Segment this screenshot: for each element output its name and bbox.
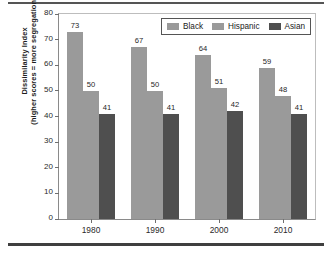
bar-value-label: 42 bbox=[231, 100, 239, 109]
bar[interactable]: 50 bbox=[83, 91, 99, 219]
figure-top-rule bbox=[8, 2, 324, 4]
bar[interactable]: 64 bbox=[195, 55, 211, 219]
y-axis-tick-label: 70 bbox=[44, 34, 53, 43]
x-axis-tick-label: 2000 bbox=[210, 225, 229, 235]
y-axis-tick-label: 0 bbox=[49, 213, 53, 222]
legend-item[interactable]: Asian bbox=[269, 22, 305, 31]
bar-value-label: 59 bbox=[263, 57, 271, 66]
legend-label: Black bbox=[183, 22, 203, 31]
bar[interactable]: 41 bbox=[291, 114, 307, 219]
plot-area: 01020304050607080 7350416750416451425948… bbox=[58, 13, 316, 220]
bar-group: 594841 bbox=[251, 14, 315, 219]
x-axis-tick-mark bbox=[219, 219, 220, 223]
y-axis-title-line-2: (higher scores = more segregation) bbox=[30, 0, 39, 125]
legend-item[interactable]: Hispanic bbox=[212, 22, 259, 31]
bar-group: 645142 bbox=[187, 14, 251, 219]
bar[interactable]: 41 bbox=[163, 114, 179, 219]
bar[interactable]: 50 bbox=[147, 91, 163, 219]
bar-group: 735041 bbox=[59, 14, 123, 219]
bar-value-label: 48 bbox=[279, 85, 287, 94]
bar[interactable]: 51 bbox=[211, 88, 227, 219]
x-axis-tick-mark bbox=[155, 219, 156, 223]
y-axis-tick-label: 40 bbox=[44, 111, 53, 120]
bar[interactable]: 59 bbox=[259, 68, 275, 219]
legend-label: Asian bbox=[285, 22, 305, 31]
y-axis-tick-label: 30 bbox=[44, 136, 53, 145]
bar-value-label: 64 bbox=[199, 44, 207, 53]
x-axis-tick-label: 1980 bbox=[82, 225, 101, 235]
bar[interactable]: 67 bbox=[131, 47, 147, 219]
bar[interactable]: 73 bbox=[67, 32, 83, 219]
bar-value-label: 41 bbox=[103, 103, 111, 112]
x-axis-tick-label: 2010 bbox=[274, 225, 293, 235]
bar-value-label: 50 bbox=[151, 80, 159, 89]
bar-value-label: 73 bbox=[71, 21, 79, 30]
bar[interactable]: 42 bbox=[227, 111, 243, 219]
y-axis-tick-label: 20 bbox=[44, 162, 53, 171]
bar[interactable]: 48 bbox=[275, 96, 291, 219]
legend-swatch-icon bbox=[167, 23, 179, 30]
legend-swatch-icon bbox=[269, 23, 281, 30]
bar-value-label: 51 bbox=[215, 77, 223, 86]
bar-value-label: 41 bbox=[167, 103, 175, 112]
bar-groups: 735041675041645142594841 bbox=[59, 14, 315, 219]
figure: Dissimilarity Index (higher scores = mor… bbox=[0, 0, 332, 255]
bar-value-label: 50 bbox=[87, 80, 95, 89]
y-axis-tick-label: 50 bbox=[44, 85, 53, 94]
legend-item[interactable]: Black bbox=[167, 22, 203, 31]
x-axis-tick-mark bbox=[283, 219, 284, 223]
y-axis-tick-label: 10 bbox=[44, 187, 53, 196]
figure-bottom-rule bbox=[8, 243, 324, 246]
bar-group: 675041 bbox=[123, 14, 187, 219]
bar[interactable]: 41 bbox=[99, 114, 115, 219]
y-axis-tick-label: 80 bbox=[44, 8, 53, 17]
x-axis-tick-label: 1990 bbox=[146, 225, 165, 235]
y-axis-tick-label: 60 bbox=[44, 59, 53, 68]
legend-swatch-icon bbox=[212, 23, 224, 30]
bar-value-label: 67 bbox=[135, 36, 143, 45]
y-axis-title: Dissimilarity Index (higher scores = mor… bbox=[17, 0, 43, 149]
legend-label: Hispanic bbox=[228, 22, 259, 31]
legend: BlackHispanicAsian bbox=[161, 18, 311, 35]
bar-value-label: 41 bbox=[295, 103, 303, 112]
x-axis-tick-mark bbox=[91, 219, 92, 223]
